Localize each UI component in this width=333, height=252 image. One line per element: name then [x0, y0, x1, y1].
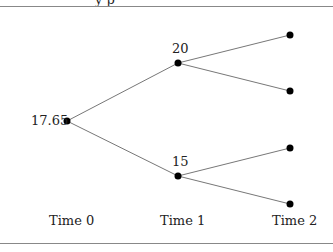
- node-down: [175, 173, 182, 180]
- node-dd: [287, 201, 294, 208]
- root-value-label: 17.65: [31, 113, 68, 128]
- up-value-label: 20: [172, 41, 189, 56]
- time-1-label: Time 1: [160, 213, 205, 228]
- down-value-label: 15: [172, 154, 189, 169]
- node-ud: [287, 88, 294, 95]
- bottom-divider: [0, 243, 333, 244]
- time-2-label: Time 2: [272, 213, 317, 228]
- node-uu: [287, 32, 294, 39]
- node-du: [287, 145, 294, 152]
- time-0-label: Time 0: [49, 213, 94, 228]
- node-up: [175, 60, 182, 67]
